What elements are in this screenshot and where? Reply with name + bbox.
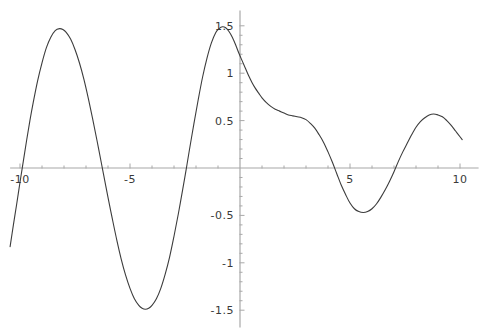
plot-svg [0,0,482,331]
y-tick-label: -1.5 [211,305,234,316]
y-tick-label: -1 [222,257,234,268]
x-tick-label: 5 [346,174,354,185]
x-tick-label: 10 [453,174,468,185]
y-tick-label: 0.5 [215,115,234,126]
x-axis [10,164,479,169]
y-tick-label: 1.5 [215,20,234,31]
y-axis [240,10,245,327]
x-tick-label: -10 [10,174,29,185]
y-tick-label: -0.5 [211,210,234,221]
y-tick-label: 1 [227,68,235,79]
x-tick-label: -5 [124,174,136,185]
plot-canvas: -10-55101.510.5-0.5-1-1.5 [0,0,482,331]
